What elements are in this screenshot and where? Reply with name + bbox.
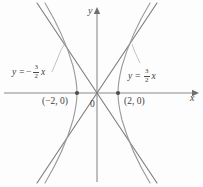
vertex-dot-right xyxy=(116,91,120,95)
left-equation-fraction: 3 2 xyxy=(33,64,39,80)
vertex-dot-left xyxy=(75,91,79,95)
right-equation-fraction: 3 2 xyxy=(144,68,150,84)
left-equation-sign: − xyxy=(26,68,31,78)
hyperbola-figure: y = − 3 2 x y = 3 2 x (−2, 0) (2, 0) 0 x… xyxy=(0,0,203,187)
left-equation-variable: x xyxy=(41,68,45,78)
left-vertex-label: (−2, 0) xyxy=(42,97,68,107)
y-axis-arrowhead xyxy=(94,7,100,14)
origin-label: 0 xyxy=(90,100,95,110)
left-equation-leader-line xyxy=(52,43,65,72)
right-vertex-label: (2, 0) xyxy=(124,97,145,107)
x-axis-label: x xyxy=(190,93,194,103)
left-equation-numerator: 3 xyxy=(33,64,39,71)
right-equation-text: y = 3 2 x xyxy=(128,69,156,85)
left-asymptote-equation-label: y = − 3 2 x xyxy=(12,62,45,81)
right-equation-lead: y = xyxy=(128,72,141,82)
right-equation-variable: x xyxy=(152,72,156,82)
left-equation-text: y = − 3 2 x xyxy=(12,65,45,81)
y-axis-label: y xyxy=(88,6,92,16)
right-asymptote-equation-label: y = 3 2 x xyxy=(128,66,156,85)
left-equation-denominator: 2 xyxy=(33,72,39,80)
graph-canvas xyxy=(0,0,203,187)
right-equation-numerator: 3 xyxy=(144,68,150,75)
right-equation-denominator: 2 xyxy=(144,76,150,84)
left-equation-lead: y = xyxy=(12,68,25,78)
right-equation-leader-line xyxy=(132,44,140,63)
